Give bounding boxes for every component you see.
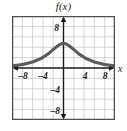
y-tick-label-neg4: –4 [50, 85, 61, 95]
x-axis-name-svg: x [115, 60, 127, 76]
y-tick-label-8: 8 [54, 23, 59, 33]
x-tick-label-neg4: –4 [37, 71, 48, 81]
x-tick-label-4: 4 [82, 71, 88, 81]
graph-figure: f(x) [0, 0, 127, 131]
figure-title: f(x) [0, 0, 127, 13]
coordinate-plane-svg: –8 –4 4 8 8 –4 –8 [12, 16, 115, 120]
y-tick-label-neg8: –8 [50, 106, 61, 116]
x-tick-label-8: 8 [103, 71, 108, 81]
x-tick-label-neg8: –8 [17, 71, 28, 81]
plot-area: –8 –4 4 8 8 –4 –8 x [12, 16, 115, 120]
x-axis-name: x [117, 64, 123, 74]
